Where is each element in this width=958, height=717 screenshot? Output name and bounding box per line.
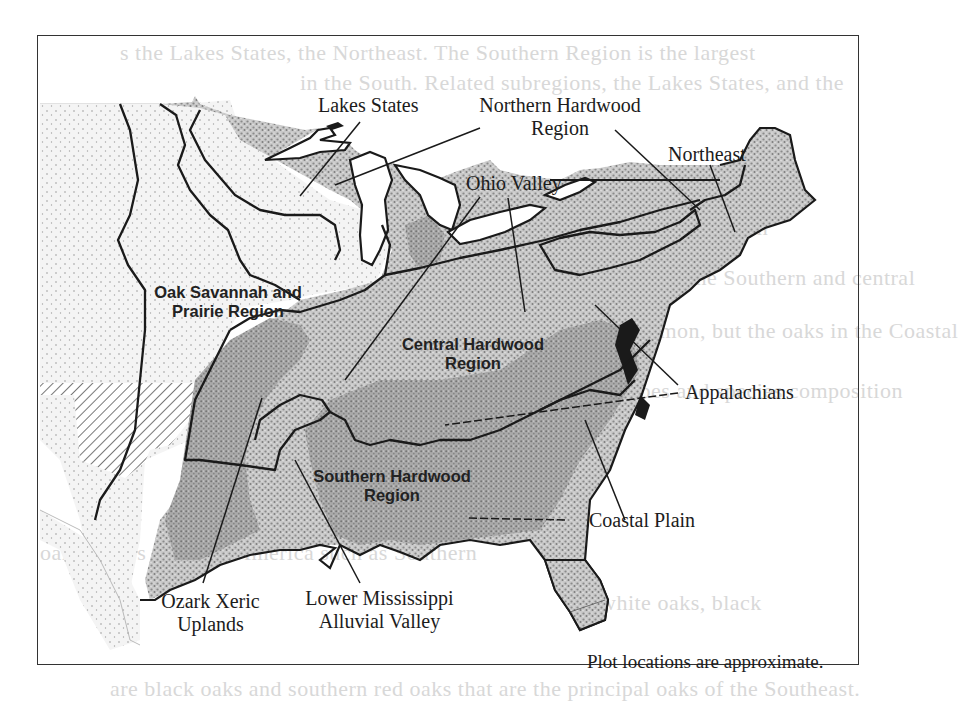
label-lakes-states: Lakes States [318, 94, 419, 117]
label-ohio-valley: Ohio Valley [466, 172, 562, 195]
label-northern-hardwood-region: Northern Hardwood Region [460, 94, 660, 140]
label-ozark-xeric-uplands: Ozark Xeric Uplands [148, 590, 273, 636]
label-northeast: Northeast [668, 143, 746, 166]
label-northern-hardwood-line2: Region [460, 117, 660, 140]
plot-location-note: Plot locations are approximate. [587, 651, 823, 673]
label-southern-hardwood-line1: Southern Hardwood [302, 467, 482, 486]
label-central-hardwood-region: Central Hardwood Region [388, 335, 558, 373]
label-lower-miss-line1: Lower Mississippi [292, 587, 467, 610]
label-central-hardwood-line2: Region [388, 354, 558, 373]
label-oak-savannah-line2: Prairie Region [148, 302, 308, 321]
label-ozark-line2: Uplands [148, 613, 273, 636]
label-lower-miss-line2: Alluvial Valley [292, 610, 467, 633]
label-southern-hardwood-region: Southern Hardwood Region [302, 467, 482, 505]
label-oak-savannah-line1: Oak Savannah and [148, 283, 308, 302]
label-lower-mississippi-alluvial-valley: Lower Mississippi Alluvial Valley [292, 587, 467, 633]
label-appalachians: Appalachians [685, 381, 794, 404]
label-southern-hardwood-line2: Region [302, 486, 482, 505]
label-northern-hardwood-line1: Northern Hardwood [460, 94, 660, 117]
label-ozark-line1: Ozark Xeric [148, 590, 273, 613]
label-central-hardwood-line1: Central Hardwood [388, 335, 558, 354]
label-oak-savannah-prairie-region: Oak Savannah and Prairie Region [148, 283, 308, 321]
label-coastal-plain: Coastal Plain [589, 509, 695, 532]
